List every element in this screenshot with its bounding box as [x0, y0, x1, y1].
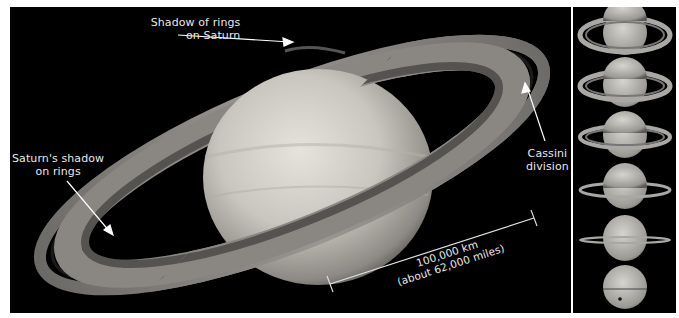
tilt-frame-5 [580, 215, 670, 261]
label-shadow-of-rings: Shadow of rings on Saturn [146, 16, 240, 42]
tilt-frame-4 [580, 163, 670, 209]
saturn-tilt-strip [573, 7, 676, 313]
label-cassini-division: Cassini division [526, 147, 569, 173]
label-saturn-shadow-on-rings: Saturn's shadow on rings [12, 152, 104, 178]
tilt-frame-6 [603, 265, 647, 309]
tilt-frame-2 [580, 57, 670, 107]
saturn-main-panel: Shadow of rings on Saturn Saturn's shado… [10, 7, 571, 313]
tilt-frame-3 [580, 111, 670, 158]
tilt-sequence [573, 7, 676, 313]
tilt-frame-1 [580, 7, 670, 55]
